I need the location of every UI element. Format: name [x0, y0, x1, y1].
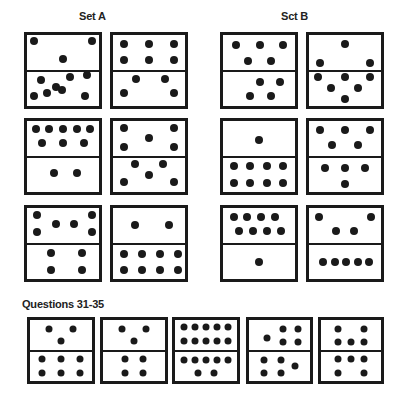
- pip-dot: [341, 40, 349, 48]
- pip-dot: [291, 362, 298, 369]
- domino-divider: [113, 243, 185, 245]
- domino-divider: [223, 70, 295, 72]
- pip-dot: [70, 220, 78, 228]
- pip-dot: [70, 325, 77, 332]
- pip-dot: [267, 57, 275, 65]
- pip-dot: [261, 369, 268, 376]
- pip-dot: [118, 325, 125, 332]
- pip-dot: [277, 227, 285, 235]
- set-a-domino: [110, 32, 188, 109]
- pip-dot: [279, 339, 286, 346]
- pip-dot: [120, 178, 128, 186]
- pip-dot: [294, 339, 301, 346]
- domino-bottom-half: [309, 245, 381, 280]
- domino-divider: [27, 156, 99, 158]
- domino-bottom-half: [113, 245, 185, 280]
- question-domino-33: [172, 317, 240, 384]
- pip-dot: [191, 337, 198, 344]
- domino-divider: [309, 70, 381, 72]
- pip-dot: [277, 356, 284, 363]
- pip-dot: [249, 227, 257, 235]
- pip-dot: [50, 169, 58, 177]
- domino-bottom-half: [113, 158, 185, 193]
- pip-dot: [45, 325, 52, 332]
- questions-title: Questions 31-35: [22, 298, 104, 310]
- set-a-domino: [110, 118, 188, 195]
- pip-dot: [255, 258, 263, 266]
- set-a-domino: [24, 32, 102, 109]
- question-domino-34: [246, 317, 313, 384]
- pip-dot: [33, 228, 41, 236]
- pip-dot: [88, 37, 96, 45]
- pip-dot: [145, 40, 153, 48]
- pip-dot: [261, 356, 268, 363]
- domino-bottom-half: [27, 245, 99, 280]
- pip-dot: [361, 164, 369, 172]
- pip-dot: [194, 369, 201, 376]
- pip-dot: [138, 266, 146, 274]
- pip-dot: [121, 369, 128, 376]
- pip-dot: [341, 126, 349, 134]
- pip-dot: [52, 220, 60, 228]
- pip-dot: [43, 89, 51, 97]
- domino-divider: [113, 70, 185, 72]
- pip-dot: [47, 249, 55, 257]
- pip-dot: [279, 41, 287, 49]
- pip-dot: [38, 139, 46, 147]
- pip-dot: [246, 162, 254, 170]
- pip-dot: [334, 339, 341, 346]
- pip-dot: [59, 125, 67, 133]
- pip-dot: [131, 337, 138, 344]
- pip-dot: [174, 250, 182, 258]
- pip-dot: [279, 325, 286, 332]
- pip-dot: [224, 337, 231, 344]
- pip-dot: [332, 227, 340, 235]
- pip-dot: [145, 171, 153, 179]
- pip-dot: [334, 325, 341, 332]
- pip-dot: [145, 56, 153, 64]
- pip-dot: [263, 179, 271, 187]
- pip-dot: [156, 266, 164, 274]
- pip-dot: [170, 89, 178, 97]
- pip-dot: [267, 92, 275, 100]
- domino-divider: [223, 243, 295, 245]
- set-b-title: Sct B: [281, 10, 308, 22]
- pip-dot: [361, 369, 368, 376]
- pip-dot: [191, 356, 198, 363]
- pip-dot: [341, 95, 349, 103]
- domino-divider: [223, 156, 295, 158]
- pip-dot: [263, 227, 271, 235]
- pip-dot: [279, 179, 287, 187]
- pip-dot: [319, 258, 327, 266]
- pip-dot: [120, 40, 128, 48]
- pip-dot: [277, 369, 284, 376]
- pip-dot: [39, 355, 46, 362]
- pip-dot: [181, 356, 188, 363]
- pip-dot: [316, 126, 324, 134]
- set-b-domino: [220, 118, 298, 195]
- domino-divider: [113, 156, 185, 158]
- pip-dot: [33, 211, 41, 219]
- domino-top-half: [223, 208, 295, 243]
- pip-dot: [263, 162, 271, 170]
- domino-bottom-half: [113, 72, 185, 107]
- pip-dot: [191, 324, 198, 331]
- domino-divider: [175, 350, 237, 352]
- pip-dot: [76, 355, 83, 362]
- pip-dot: [243, 213, 251, 221]
- pip-dot: [30, 92, 38, 100]
- pip-dot: [58, 369, 65, 376]
- pip-dot: [121, 355, 128, 362]
- pip-dot: [367, 213, 375, 221]
- pip-dot: [264, 334, 271, 341]
- pip-dot: [350, 227, 358, 235]
- set-a-domino: [24, 205, 102, 282]
- pip-dot: [361, 339, 368, 346]
- pip-dot: [211, 369, 218, 376]
- pip-dot: [73, 169, 81, 177]
- domino-top-half: [113, 208, 185, 243]
- pip-dot: [58, 355, 65, 362]
- pip-dot: [214, 337, 221, 344]
- domino-bottom-half: [309, 72, 381, 107]
- pip-dot: [131, 160, 139, 168]
